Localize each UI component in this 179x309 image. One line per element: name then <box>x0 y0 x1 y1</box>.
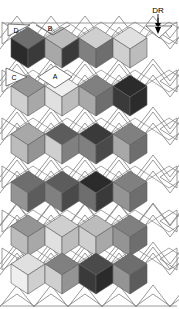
region-a-label: A <box>53 73 58 80</box>
figure-canvas: DBCADR <box>0 0 179 309</box>
region-d-label: D <box>13 27 18 34</box>
dr-label: DR <box>152 6 164 15</box>
region-b-label: B <box>48 25 53 32</box>
region-c-label: C <box>11 74 16 81</box>
cube-tiling-diagram: DBCADR <box>0 0 179 309</box>
